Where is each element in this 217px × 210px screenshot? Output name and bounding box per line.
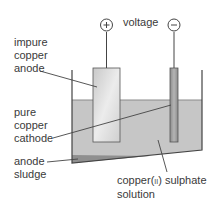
solution-label: copper(II) sulphate solution	[117, 174, 207, 201]
cathode-label: pure copper cathode	[14, 106, 53, 145]
anode-leader	[40, 71, 97, 87]
cathode-electrode	[170, 68, 178, 142]
copper-sulphate-solution	[72, 100, 202, 163]
voltage-label: voltage	[123, 16, 158, 29]
electrolysis-diagram: voltage impure copper anode pure copper …	[0, 0, 217, 210]
anode-label: impure copper anode	[14, 36, 48, 75]
anode-electrode	[93, 68, 120, 142]
sludge-label: anode sludge	[14, 155, 46, 181]
